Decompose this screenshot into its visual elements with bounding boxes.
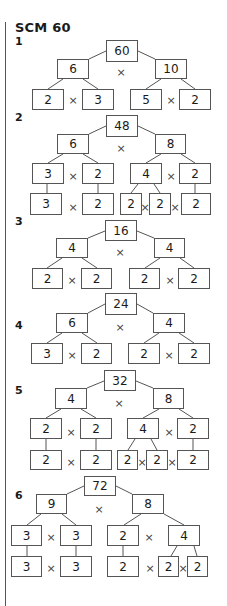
branch-line [83,79,98,89]
factor-box: 3 [82,89,114,110]
factor-box: 4 [130,163,162,184]
factor-box: 2 [179,163,211,184]
factor-box: 3 [31,343,63,364]
branch-line [128,439,135,450]
factor-box: 2 [82,193,114,215]
factor-box: 3 [11,556,42,577]
branch-line [87,381,104,388]
branch-line [83,154,98,163]
factor-box: 2 [117,450,138,470]
branch-line [137,304,153,313]
factor-box: 2 [81,268,112,289]
multiply-sign-icon: × [166,94,175,107]
multiply-sign-icon: × [68,94,77,107]
factor-box: 8 [155,134,186,154]
branch-line [48,79,63,89]
multiply-sign-icon: × [145,562,154,575]
factor-box: 32 [104,370,136,391]
question-number: 4 [15,319,23,332]
branch-line [146,154,161,163]
factor-box: 8 [153,388,184,409]
multiply-sign-icon: × [67,274,76,287]
branch-line [27,514,41,525]
multiply-sign-icon: × [164,349,173,362]
branch-line [180,258,194,268]
multiply-sign-icon: × [116,142,125,155]
branch-line [154,184,160,193]
branch-line [67,486,84,494]
branch-line [181,154,195,163]
branch-line [116,486,132,494]
factor-box: 48 [106,115,138,137]
factor-box: 16 [105,220,137,241]
branch-line [47,333,62,343]
question-number: 3 [15,215,23,228]
branch-line [82,333,97,343]
factor-box: 2 [177,418,209,439]
factor-box: 3 [11,525,42,546]
factor-box: 2 [30,418,62,439]
multiply-sign-icon: × [116,66,125,79]
factor-box: 4 [154,238,185,258]
multiply-sign-icon: × [94,503,103,516]
factor-box: 4 [153,313,185,333]
branch-line [88,304,105,313]
multiply-sign-icon: × [140,201,149,214]
multiply-sign-icon: × [167,456,176,469]
factor-box: 3 [30,193,62,215]
factor-box: 2 [149,193,171,215]
branch-line [46,409,61,418]
branch-line [179,333,194,343]
multiply-sign-icon: × [68,201,77,214]
factor-box: 4 [55,388,87,409]
factor-box: 4 [56,238,88,258]
factor-box: 2 [30,450,62,470]
multiply-sign-icon: × [46,562,55,575]
branch-line [164,514,184,525]
factor-box: 5 [130,89,162,110]
multiply-sign-icon: × [166,170,175,183]
branch-line [146,79,161,89]
branch-line [48,154,63,163]
multiply-sign-icon: × [67,349,76,362]
branch-line [89,51,106,59]
factor-box: 2 [179,89,211,110]
multiply-sign-icon: × [170,201,179,214]
factor-box: 9 [36,494,67,514]
branch-line [137,231,154,238]
factor-box: 2 [177,450,209,470]
factor-box: 72 [84,476,116,496]
branch-line [138,126,155,134]
factor-box: 2 [120,193,142,215]
factor-box: 6 [57,134,89,154]
multiply-sign-icon: × [137,456,146,469]
factor-box: 24 [105,293,137,315]
factor-box: 8 [132,494,164,514]
factor-box: 2 [81,343,112,364]
factor-box: 2 [146,450,168,470]
branch-line [131,184,138,193]
question-number: 1 [15,35,23,48]
factor-box: 3 [60,556,92,577]
branch-line [124,514,141,525]
branch-line [144,333,159,343]
factor-box: 2 [80,450,112,470]
branch-line [82,258,97,268]
factor-box: 2 [181,193,211,215]
factor-box: 2 [80,418,112,439]
factor-box: 2 [107,525,139,546]
branch-line [143,409,159,418]
branch-line [179,409,193,418]
question-number: 2 [15,111,23,124]
factor-box: 2 [187,556,208,577]
factor-box: 2 [129,268,160,289]
branch-line [89,126,106,134]
branch-line [181,79,195,89]
factor-box: 4 [127,418,159,439]
multiply-sign-icon: × [144,531,153,544]
multiply-sign-icon: × [115,321,124,334]
branch-line [62,514,76,525]
factor-box: 6 [56,313,88,333]
multiply-sign-icon: × [68,170,77,183]
factor-box: 2 [32,268,63,289]
